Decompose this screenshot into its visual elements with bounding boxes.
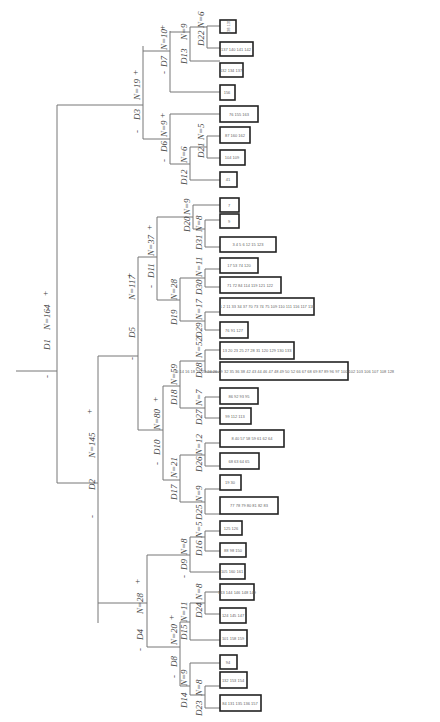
node-label-D12: D12: [179, 169, 189, 186]
leaf-box: 9: [220, 214, 239, 228]
svg-text:156: 156: [224, 90, 231, 95]
svg-text:76 91 127: 76 91 127: [225, 328, 244, 333]
leaf-box: 13 20 23 25 27 28 31 120 129 130 133: [220, 342, 294, 359]
leaf-box: 104 109: [220, 150, 245, 165]
node-label-D28: D28: [194, 362, 204, 379]
node-count-D30: N=11: [194, 257, 204, 278]
svg-text:137 140 141 142: 137 140 141 142: [221, 47, 252, 52]
leaf-box: 99 112 113: [220, 408, 251, 424]
node-label-D4: D4: [135, 629, 145, 641]
svg-text:17 53 74 120: 17 53 74 120: [227, 263, 251, 268]
leaf-box: 77 78 79 80 81 82 83: [220, 497, 278, 514]
node-count-D31: N=8: [194, 215, 204, 233]
svg-text:68 63 64 65: 68 63 64 65: [228, 459, 250, 464]
branch-plus: +: [166, 615, 176, 620]
svg-text:76 155 163: 76 155 163: [229, 112, 250, 117]
branch-minus: -: [159, 71, 169, 74]
branch-plus: +: [124, 273, 134, 278]
node-label-D11: D11: [146, 263, 156, 279]
node-count-D9: N=8: [179, 538, 189, 556]
branch-minus: -: [146, 285, 156, 288]
branch-plus: +: [157, 25, 167, 30]
leaf-box: 84 131 135 136 157: [220, 695, 261, 711]
node-label-D7: D7: [159, 56, 169, 68]
leaf-box: 10 14 16 18 21 22 24 26 29 32 35 36 38 4…: [174, 362, 395, 380]
decision-tree-diagram: 138 139 137 140 141 142 132 134 137 156 …: [0, 0, 440, 722]
branch-minus: -: [42, 375, 52, 378]
node-count-D2: N=145: [87, 432, 97, 459]
branch-plus: +: [144, 225, 154, 230]
node-label-D20: D20: [182, 216, 192, 233]
node-count-D1: N=164: [42, 304, 52, 331]
node-count-D20: N=9: [182, 198, 192, 216]
node-count-D24: N=8: [194, 583, 204, 601]
node-label-D2: D2: [87, 479, 97, 491]
node-count-D19: N=28: [169, 278, 179, 301]
leaf-box: 132 153 154: [220, 672, 247, 688]
node-count-D16: N=5: [194, 521, 204, 539]
svg-text:101 158 159: 101 158 159: [222, 636, 245, 641]
leaf-box: 132 134 137: [220, 63, 243, 77]
node-label-D21: D21: [196, 143, 206, 160]
node-count-D28: N=52: [194, 336, 204, 359]
branch-plus: +: [157, 113, 167, 118]
node-label-D15: D15: [179, 624, 189, 641]
branch-minus: -: [179, 575, 189, 578]
leaf-box: 7: [220, 198, 239, 212]
node-count-D12: N=6: [179, 146, 189, 164]
node-count-D8: N=20: [169, 623, 179, 646]
branch-plus: +: [132, 579, 142, 584]
node-label-D19: D19: [169, 309, 179, 326]
node-count-D18: N=59: [169, 363, 179, 386]
leaf-box: 1 2 11 33 34 37 70 73 74 75 109 110 111 …: [220, 298, 315, 315]
node-label-D22: D22: [196, 30, 206, 47]
node-count-D4: N=28: [135, 592, 145, 615]
svg-text:71 72 84 114 119 121 122: 71 72 84 114 119 121 122: [227, 283, 274, 288]
branch-plus: +: [130, 70, 140, 75]
leaf-box: 88 98 150: [220, 543, 246, 557]
leaf-box: 68 63 64 65: [220, 453, 259, 469]
branch-minus: -: [87, 515, 97, 518]
node-label-D3: D3: [132, 109, 142, 121]
node-label-D9: D9: [179, 559, 189, 571]
svg-text:84 131 135 136 157: 84 131 135 136 157: [222, 701, 258, 706]
svg-text:8 40 57 58 59 61 62 64: 8 40 57 58 59 61 62 64: [231, 436, 273, 441]
branch-plus: +: [40, 291, 50, 296]
tree-edges: [16, 26, 220, 708]
node-label-D6: D6: [159, 141, 169, 153]
svg-text:94: 94: [226, 660, 231, 665]
leaf-box: 125 126: [220, 521, 242, 535]
node-count-D27: N=7: [194, 389, 204, 407]
leaf-box: 137 140 141 142: [220, 42, 253, 56]
node-label-D13: D13: [179, 48, 189, 65]
branch-plus: +: [84, 409, 94, 414]
svg-text:125 126: 125 126: [224, 526, 239, 531]
node-count-D15: N=11: [179, 602, 189, 623]
node-count-D13: N=9: [179, 23, 189, 41]
leaf-box: 124 145 147: [220, 608, 246, 623]
node-label-D1: D1: [42, 339, 52, 351]
leaf-box: 105 160 161: [220, 564, 245, 579]
leaf-box: 156: [220, 85, 235, 100]
node-label-D5: D5: [127, 327, 137, 339]
node-count-D26: N=12: [194, 433, 204, 456]
node-count-D29: N=17: [194, 298, 204, 321]
node-label-D17: D17: [169, 484, 179, 501]
leaf-box: 8 40 57 58 59 61 62 64: [220, 430, 284, 447]
node-count-D3: N=19: [132, 78, 142, 101]
node-count-D10: N=80: [152, 408, 162, 431]
svg-text:19 30: 19 30: [225, 480, 236, 485]
node-label-D10: D10: [152, 439, 162, 456]
node-label-D31: D31: [194, 235, 204, 252]
branch-minus: -: [127, 357, 137, 360]
branch-minus: -: [152, 462, 162, 465]
svg-text:3 4 5 6 12 15 123: 3 4 5 6 12 15 123: [232, 242, 264, 247]
leaf-box: 17 53 74 120: [220, 258, 258, 273]
svg-text:10 14 16 18 21 22 24 26 29 32: 10 14 16 18 21 22 24 26 29 32 35 36 38 4…: [174, 369, 395, 374]
leaf-box: 71 72 84 114 119 121 122: [220, 277, 281, 293]
node-label-D30: D30: [194, 279, 204, 296]
svg-text:99 112 113: 99 112 113: [225, 414, 245, 419]
leaf-box: 41: [220, 172, 237, 187]
svg-text:1 2 11 33 34 37 70 73 74 75 10: 1 2 11 33 34 37 70 73 74 75 109 110 111 …: [220, 304, 315, 309]
branch-minus: -: [132, 130, 142, 133]
